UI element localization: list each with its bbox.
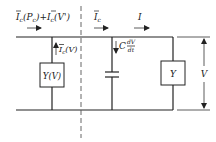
capacitor-current-denominator: dt xyxy=(128,46,135,53)
capacitor-current-numerator: dV xyxy=(127,38,136,45)
voltage-label: V xyxy=(201,69,209,79)
left-current-label: Ic(Pc)+Ic(V') xyxy=(15,12,70,23)
branch-current-label: Ic(V) xyxy=(58,45,77,55)
load-admittance-label: Y xyxy=(170,69,177,79)
right-current-label: I xyxy=(137,12,142,22)
circuit-diagram: Y(V) Ic(V) C dV dt Y V Ic(Pc)+Ic(V') Ic … xyxy=(0,0,216,142)
capacitor-current-C: C xyxy=(119,41,126,51)
nonlinear-admittance-label: Y(V) xyxy=(43,71,61,81)
mid-current-label: Ic xyxy=(93,12,102,23)
